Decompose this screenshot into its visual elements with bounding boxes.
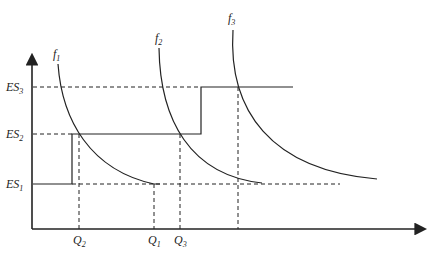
label-q2: Q2 bbox=[73, 233, 86, 249]
label-f3: f3 bbox=[228, 11, 235, 27]
label-f1: f1 bbox=[53, 47, 60, 63]
label-f2: f2 bbox=[155, 31, 162, 47]
step-supply-line bbox=[33, 87, 293, 184]
label-q1: Q1 bbox=[148, 233, 161, 249]
label-es2: ES2 bbox=[5, 127, 23, 143]
supply-demand-diagram: ES3 ES2 ES1 Q2 Q1 Q3 f1 f2 f3 bbox=[0, 0, 434, 255]
curve-f2 bbox=[159, 48, 262, 183]
curve-f1 bbox=[58, 64, 160, 184]
label-q3: Q3 bbox=[174, 233, 187, 249]
label-es3: ES3 bbox=[5, 80, 23, 96]
label-es1: ES1 bbox=[5, 177, 23, 193]
curve-f3 bbox=[233, 30, 377, 179]
